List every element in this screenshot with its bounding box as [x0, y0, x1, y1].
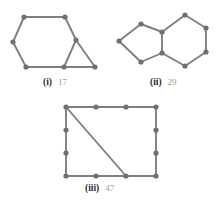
graph-vertex: [203, 49, 208, 54]
graph-edge: [65, 17, 76, 40]
graph-vertex: [159, 50, 164, 55]
graph-vertex: [62, 14, 67, 19]
graph-vertex: [138, 59, 143, 64]
graph-vertex: [182, 12, 187, 17]
graph-edge: [141, 53, 162, 62]
graph-vertex: [21, 14, 26, 19]
graph-edge: [119, 24, 141, 41]
panel-iii: [63, 104, 158, 178]
graph-edge: [66, 107, 126, 176]
caption-number-iii: 47: [105, 183, 114, 193]
graph-vertex: [63, 127, 68, 132]
panel-iii-edges: [66, 107, 156, 176]
graph-vertex: [159, 29, 164, 34]
graph-vertex: [153, 104, 158, 109]
graph-diagram-canvas: [0, 0, 219, 203]
graph-edge: [76, 40, 95, 67]
caption-panel-i: (i)17: [43, 78, 67, 88]
caption-roman-ii: (ii): [150, 77, 162, 87]
graph-vertex: [92, 64, 97, 69]
graph-vertex: [63, 104, 68, 109]
graph-vertex: [73, 37, 78, 42]
panel-iii-vertices: [63, 104, 158, 178]
graph-vertex: [61, 64, 66, 69]
graph-vertex: [203, 25, 208, 30]
graph-vertex: [123, 173, 128, 178]
graph-vertex: [10, 39, 15, 44]
graph-vertex: [153, 150, 158, 155]
panel-i-edges: [13, 17, 95, 67]
caption-panel-iii: (iii)47: [85, 184, 114, 194]
graph-edge: [13, 17, 24, 42]
graph-edge: [141, 24, 162, 32]
caption-number-i: 17: [58, 77, 67, 87]
graph-edge: [64, 40, 76, 67]
graph-vertex: [116, 38, 121, 43]
caption-number-ii: 29: [168, 77, 177, 87]
graph-edge: [185, 15, 206, 28]
caption-roman-i: (i): [43, 77, 52, 87]
panel-ii: [116, 12, 208, 68]
graph-vertex: [23, 64, 28, 69]
figure-container: (i)17 (ii)29 (iii)47: [0, 0, 219, 203]
graph-vertex: [182, 63, 187, 68]
graph-vertex: [138, 21, 143, 26]
graph-vertex: [153, 127, 158, 132]
panel-ii-edges: [119, 15, 206, 66]
panel-i: [10, 14, 97, 69]
caption-panel-ii: (ii)29: [150, 78, 177, 88]
graph-edge: [119, 41, 141, 62]
graph-vertex: [123, 104, 128, 109]
graph-vertex: [63, 150, 68, 155]
graph-vertex: [93, 173, 98, 178]
graph-edge: [162, 53, 185, 66]
caption-roman-iii: (iii): [85, 183, 99, 193]
graph-vertex: [63, 173, 68, 178]
graph-edge: [162, 15, 185, 32]
graph-vertex: [93, 104, 98, 109]
graph-edge: [185, 52, 206, 66]
graph-vertex: [153, 173, 158, 178]
graph-edge: [13, 42, 26, 67]
